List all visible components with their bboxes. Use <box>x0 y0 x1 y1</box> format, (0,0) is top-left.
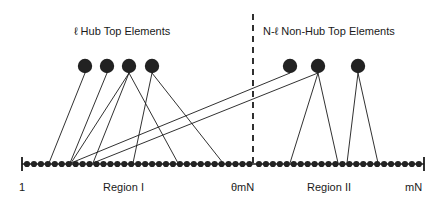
edge-nonhub-1 <box>71 73 290 163</box>
axis-element-dot <box>107 161 113 167</box>
axis-element-dot <box>409 161 415 167</box>
axis-element-dot <box>395 161 401 167</box>
region-two-label: Region II <box>307 182 351 193</box>
axis-element-dot <box>198 161 204 167</box>
axis-element-dot <box>156 161 162 167</box>
top-node-nonhub-3 <box>351 59 365 73</box>
top-node-nonhub-1 <box>283 59 297 73</box>
axis-element-dot <box>388 161 394 167</box>
axis-element-dot <box>114 161 120 167</box>
axis-element-dot <box>360 161 366 167</box>
axis-element-dot <box>232 161 238 167</box>
axis-element-dot <box>246 161 252 167</box>
axis-element-dot <box>416 161 422 167</box>
edge-nonhub-3 <box>347 73 358 163</box>
top-node-hub-3 <box>122 59 136 73</box>
axis-element-dot <box>325 161 331 167</box>
axis-element-dot <box>346 161 352 167</box>
edge-nonhub-3 <box>358 73 378 163</box>
axis-element-dot <box>52 161 58 167</box>
axis-element-dot <box>263 161 269 167</box>
axis-element-dot <box>59 161 65 167</box>
axis-element-dot <box>24 161 30 167</box>
axis-element-dot <box>332 161 338 167</box>
axis-element-dot <box>339 161 345 167</box>
axis-element-dot <box>73 161 79 167</box>
axis-element-dot <box>191 161 197 167</box>
axis-element-dot <box>318 161 324 167</box>
axis-element-dot <box>374 161 380 167</box>
axis-element-dot <box>128 161 134 167</box>
diagram-canvas: ℓ Hub Top Elements N-ℓ Non-Hub Top Eleme… <box>0 0 439 206</box>
edge-hub-3 <box>129 73 178 163</box>
edge-hub-2 <box>70 73 107 163</box>
axis-element-dot <box>93 161 99 167</box>
axis-element-dot <box>225 161 231 167</box>
axis-element-dot <box>219 161 225 167</box>
axis-element-dot <box>149 161 155 167</box>
axis-element-dot <box>184 161 190 167</box>
edge-nonhub-2 <box>318 73 338 163</box>
axis-start-label: 1 <box>19 182 25 193</box>
axis-element-dot <box>66 161 72 167</box>
axis-element-dot <box>256 161 262 167</box>
axis-element-dot <box>38 161 44 167</box>
top-node-hub-1 <box>78 59 92 73</box>
nonhub-group-label: N-ℓ Non-Hub Top Elements <box>263 26 395 37</box>
axis-element-dot <box>170 161 176 167</box>
top-node-hub-2 <box>100 59 114 73</box>
axis-element-dot <box>312 161 318 167</box>
region-one-label: Region I <box>103 182 144 193</box>
axis-element-dot <box>163 161 169 167</box>
hub-group-label: ℓ Hub Top Elements <box>74 26 170 37</box>
axis-threshold-label: θmN <box>231 182 254 193</box>
axis-element-dot <box>212 161 218 167</box>
axis-element-dot <box>121 161 127 167</box>
top-node-layer <box>78 59 365 73</box>
axis-element-dot <box>31 161 37 167</box>
axis-element-dot <box>142 161 148 167</box>
axis-dot-layer <box>24 161 422 167</box>
axis-element-dot <box>270 161 276 167</box>
axis-element-dot <box>80 161 86 167</box>
axis-element-dot <box>135 161 141 167</box>
axis-element-dot <box>298 161 304 167</box>
axis-element-dot <box>367 161 373 167</box>
axis-element-dot <box>402 161 408 167</box>
axis-element-dot <box>100 161 106 167</box>
axis-element-dot <box>177 161 183 167</box>
axis-element-dot <box>45 161 51 167</box>
axis-element-dot <box>353 161 359 167</box>
axis-element-dot <box>284 161 290 167</box>
axis-element-dot <box>291 161 297 167</box>
axis-element-dot <box>86 161 92 167</box>
axis-element-dot <box>239 161 245 167</box>
axis-element-dot <box>205 161 211 167</box>
axis-element-dot <box>381 161 387 167</box>
edge-hub-3 <box>93 73 129 163</box>
axis-element-dot <box>277 161 283 167</box>
top-node-hub-4 <box>145 59 159 73</box>
edge-hub-4 <box>152 73 223 163</box>
edge-layer <box>49 73 378 163</box>
edge-nonhub-2 <box>93 73 318 163</box>
top-node-nonhub-2 <box>311 59 325 73</box>
axis-end-label: mN <box>405 182 422 193</box>
edge-nonhub-2 <box>290 73 318 163</box>
axis-element-dot <box>305 161 311 167</box>
